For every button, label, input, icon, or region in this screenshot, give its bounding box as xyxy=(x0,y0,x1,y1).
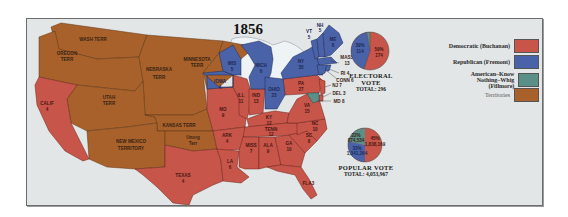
electoral-vote-label: ELECTORAL VOTE xyxy=(340,72,402,86)
territory-utah xyxy=(67,81,157,131)
label-me-ev: 8 xyxy=(332,43,335,48)
label-ga: GA xyxy=(286,141,294,146)
label-sc: SC xyxy=(306,133,313,138)
popular-vote-total: TOTAL: 4,053,967 xyxy=(333,171,399,178)
swatch-territories xyxy=(514,88,539,102)
legend-label: American–Know Nothing–Whig (Fillmore) xyxy=(447,71,514,89)
label-fla: FLA xyxy=(303,181,313,186)
label-unorg-terr-1: Unorg xyxy=(186,135,200,140)
ev-dem-pct: 59% xyxy=(374,47,383,52)
label-ark-ev: 4 xyxy=(226,139,229,144)
swatch-republican xyxy=(514,55,539,69)
swatch-american xyxy=(518,73,539,87)
label-iowa-ev: 4 xyxy=(219,85,222,90)
label-ill: ILL xyxy=(238,93,245,98)
label-ala: ALA xyxy=(263,143,273,148)
label-miss: MISS xyxy=(245,143,256,148)
label-wis-ev: 5 xyxy=(231,67,234,72)
electoral-vote-total: TOTAL: 296 xyxy=(340,86,402,93)
label-wash-terr: WASH TERR xyxy=(79,37,107,42)
label-pa-ev: 27 xyxy=(298,87,304,92)
label-pa: PA xyxy=(298,81,305,86)
label-ark: ARK xyxy=(222,133,233,138)
label-ala-ev: 9 xyxy=(267,149,270,154)
label-vt-ev: 5 xyxy=(308,35,311,40)
label-minnesota-terr-2: TERR xyxy=(191,63,204,68)
legend-item-republican: Republican (Fremont) xyxy=(453,55,539,69)
label-nc-ev: 10 xyxy=(312,127,318,132)
label-ohio-ev: 23 xyxy=(271,93,277,98)
label-mo: MO xyxy=(219,107,227,112)
label-sc-ev: 8 xyxy=(308,139,311,144)
label-ga-ev: 10 xyxy=(286,147,292,152)
legend-item-american: American–Know Nothing–Whig (Fillmore) xyxy=(447,71,539,89)
ev-dem-votes: 174 xyxy=(375,53,383,58)
label-ny: NY xyxy=(298,59,304,64)
popular-vote-label: POPULAR VOTE xyxy=(333,164,399,171)
label-mo-ev: 9 xyxy=(222,113,225,118)
label-texas: TEXAS xyxy=(175,173,190,178)
label-utah-terr-1: UTAH xyxy=(103,95,116,100)
label-wis: WIS xyxy=(228,61,237,66)
label-nh-ev: 5 xyxy=(319,28,322,33)
label-la: LA xyxy=(227,159,234,164)
label-new-mexico-2: TERRITORY xyxy=(118,146,144,151)
pv-dem-votes: 1,838,169 xyxy=(365,142,386,147)
pv-dem-pct: 45% xyxy=(370,136,379,141)
election-map-panel: WASH TERR OREGON TERR MINNESOTA TERR NEB… xyxy=(26,18,543,206)
label-oregon-terr-2: TERR xyxy=(61,57,74,62)
legend-label-line1: American–Know Nothing–Whig xyxy=(471,71,515,83)
label-me: ME xyxy=(330,37,337,42)
electoral-vote-pie: 39% 114 59% 174 xyxy=(351,32,389,70)
label-ny-ev: 35 xyxy=(298,65,304,70)
legend-label: Territories xyxy=(485,92,510,98)
label-tenn-ev: 12 xyxy=(268,132,274,137)
label-utah-terr-2: TERR xyxy=(103,101,116,106)
label-nc: NC xyxy=(312,121,319,126)
state-nj xyxy=(319,79,325,95)
label-ind: IND xyxy=(252,93,261,98)
label-ohio: OHIO xyxy=(268,87,280,92)
label-unorg-terr-2: Terr xyxy=(189,141,198,146)
label-minnesota-terr-1: MINNESOTA xyxy=(183,57,211,62)
label-vt: VT xyxy=(306,29,312,34)
map-title: 1856 xyxy=(233,21,263,38)
swatch-democratic xyxy=(514,39,539,53)
label-mich: MICH xyxy=(255,63,267,68)
label-mich-ev: 6 xyxy=(260,69,263,74)
label-va-ev: 15 xyxy=(304,109,310,114)
label-mass-ev: 13 xyxy=(344,61,350,66)
label-fla-ev: 3 xyxy=(312,181,315,186)
label-ind-ev: 13 xyxy=(253,99,259,104)
legend-label: Democratic (Buchanan) xyxy=(449,43,510,49)
label-ill-ev: 11 xyxy=(239,99,244,104)
label-texas-ev: 4 xyxy=(182,179,185,184)
pv-rep-votes: 1,341,264 xyxy=(347,151,368,156)
label-iowa: IOWA xyxy=(214,79,227,84)
label-oregon-terr-1: OREGON xyxy=(57,51,78,56)
legend-item-democratic: Democratic (Buchanan) xyxy=(449,39,539,53)
label-nebraska-terr-2: TERR xyxy=(153,75,166,80)
label-ky: KY xyxy=(266,115,272,120)
label-la-ev: 6 xyxy=(229,165,232,170)
popular-vote-pie: 22% 874,534 33% 1,341,264 45% 1,838,169 xyxy=(347,128,386,162)
label-kansas-terr: KANSAS TERR xyxy=(162,123,196,128)
popular-vote-caption: POPULAR VOTE TOTAL: 4,053,967 xyxy=(333,164,399,178)
label-nebraska-terr-1: NEBRASKA xyxy=(146,67,173,72)
ev-rep-pct: 39% xyxy=(355,43,364,48)
label-calif: CALIF xyxy=(40,101,54,106)
state-del xyxy=(319,95,323,101)
state-mass xyxy=(317,57,337,65)
label-miss-ev: 7 xyxy=(250,149,253,154)
label-calif-ev: 4 xyxy=(46,107,49,112)
label-new-mexico-1: NEW MEXICO xyxy=(116,139,147,144)
legend-label: Republican (Fremont) xyxy=(453,59,510,65)
label-ky-ev: 12 xyxy=(266,121,272,126)
ev-rep-votes: 114 xyxy=(356,49,364,54)
pv-amer-votes: 874,534 xyxy=(348,138,365,143)
legend-item-territories: Territories xyxy=(485,88,539,102)
label-md: MD 8 xyxy=(334,99,345,104)
label-va: VA xyxy=(304,103,311,108)
electoral-vote-caption: ELECTORAL VOTE TOTAL: 296 xyxy=(340,72,402,93)
